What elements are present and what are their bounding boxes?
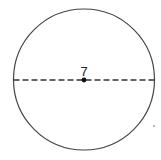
circle-diagram: 7 (0, 0, 161, 160)
stray-mark (153, 125, 155, 127)
center-label: 7 (80, 64, 87, 79)
